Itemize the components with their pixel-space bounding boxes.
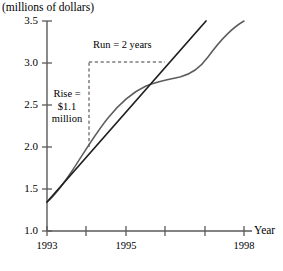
rise-annotation-label: Rise = $1.1 million [46,88,88,126]
y-tick-label-3-5: 3.5 [12,15,38,26]
rise-label-line-3: million [46,113,88,126]
y-tick-label-1-5: 1.5 [12,183,38,194]
x-axis-title: Year [254,224,275,236]
x-tick-label-1993: 1993 [27,240,67,251]
run-annotation-label: Run = 2 years [93,39,152,52]
y-tick-label-2-0: 2.0 [12,141,38,152]
y-tick-label-1-0: 1.0 [12,225,38,236]
x-tick-label-1995: 1995 [106,240,146,251]
chart-container: (millions of dollars) [0,0,283,271]
x-tick-label-1998: 1998 [224,240,264,251]
y-tick-label-2-5: 2.5 [12,99,38,110]
rise-label-line-1: Rise = [46,88,88,101]
y-tick-label-3-0: 3.0 [12,57,38,68]
rise-label-line-2: $1.1 [46,101,88,114]
